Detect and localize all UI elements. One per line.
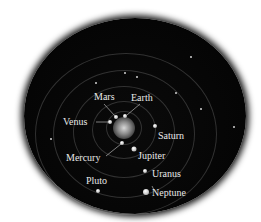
label-uranus: Uranus <box>152 169 181 179</box>
label-saturn: Saturn <box>158 131 184 141</box>
label-pluto: Pluto <box>86 176 107 186</box>
label-venus: Venus <box>63 117 87 127</box>
label-jupiter: Jupiter <box>138 151 165 161</box>
label-earth: Earth <box>131 93 153 103</box>
label-neptune: Neptune <box>152 188 186 198</box>
label-mercury: Mercury <box>66 153 100 163</box>
leader-lines <box>0 0 261 222</box>
label-mars: Mars <box>94 92 115 102</box>
